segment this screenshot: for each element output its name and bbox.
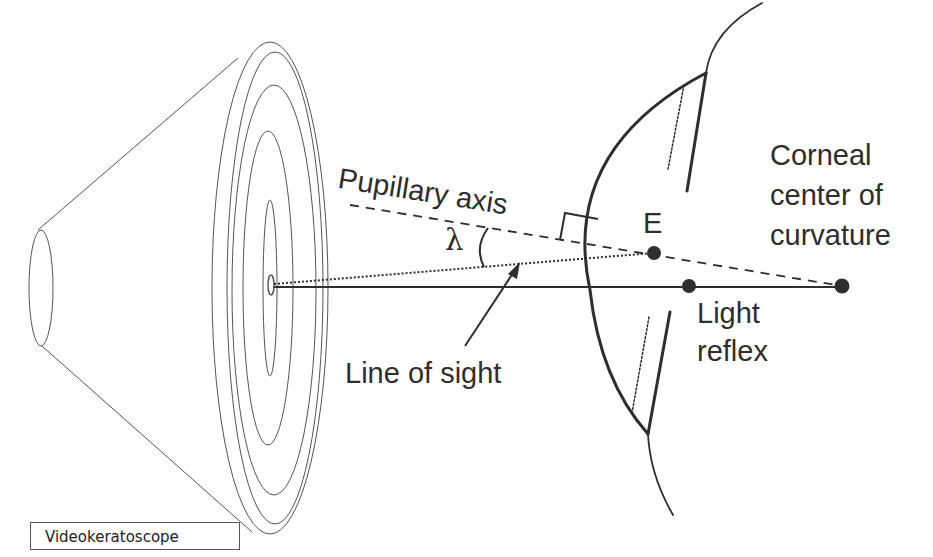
- pupillary-axis: [350, 205, 842, 286]
- label-light-reflex-1: Light: [697, 298, 760, 330]
- caption-videokeratoscope: Videokeratoscope: [45, 528, 179, 546]
- cone-top-edge: [38, 58, 238, 230]
- line-of-sight-arrow: [465, 262, 520, 346]
- label-corneal-1: Corneal: [770, 140, 872, 172]
- label-lambda: λ: [445, 225, 463, 257]
- lens-dotted-bottom: [632, 317, 649, 413]
- point-corneal-center: [835, 279, 850, 294]
- cone-back-opening: [29, 230, 53, 346]
- videokeratoscope-diagram: [0, 0, 933, 557]
- point-light-reflex: [682, 279, 696, 293]
- label-corneal-3: curvature: [770, 220, 891, 252]
- cone-bottom-edge: [42, 346, 252, 532]
- lambda-angle-arc: [480, 228, 488, 267]
- label-light-reflex-2: reflex: [697, 336, 768, 368]
- label-corneal-2: center of: [770, 180, 883, 212]
- iris-bottom: [648, 312, 670, 434]
- right-angle-marker: [560, 213, 598, 240]
- sclera-top: [706, 3, 762, 73]
- point-e: [647, 246, 661, 260]
- label-point-e: E: [643, 208, 662, 240]
- lens-dotted-top: [668, 85, 684, 169]
- caption-box: Videokeratoscope: [30, 522, 240, 550]
- label-line-of-sight: Line of sight: [345, 358, 501, 390]
- optical-lines: [274, 205, 842, 287]
- iris-top: [687, 73, 706, 191]
- placido-center: [268, 275, 274, 295]
- sclera-bottom: [648, 434, 673, 515]
- line-of-sight: [274, 253, 653, 284]
